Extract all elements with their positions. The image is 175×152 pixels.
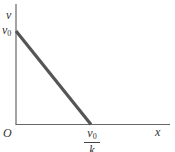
y-axis-label: v <box>6 9 11 21</box>
x-axis-label: x <box>155 126 160 138</box>
origin-label: O <box>3 127 12 139</box>
data-line <box>16 31 91 125</box>
x-intercept-denominator: k <box>84 143 100 152</box>
y-intercept-label: v0 <box>2 24 11 38</box>
x-intercept-numerator: v0 <box>84 127 100 143</box>
y-intercept-sub: 0 <box>7 29 11 38</box>
x-intercept-label: v0 k <box>84 127 100 152</box>
